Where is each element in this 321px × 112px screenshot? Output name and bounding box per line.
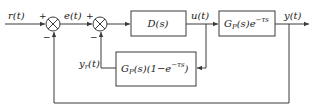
control-label: u(t) xyxy=(191,10,209,21)
summing-junction-2 xyxy=(93,17,107,31)
sum1-minus-sign: − xyxy=(43,32,51,42)
sum1-plus-sign: + xyxy=(39,11,47,21)
output-label: y(t) xyxy=(283,10,302,21)
error-label: e(t) xyxy=(64,10,82,21)
predictor-feedback-path xyxy=(101,32,116,68)
predictor-input-path xyxy=(197,24,206,68)
sum2-plus-sign: + xyxy=(86,11,94,21)
predictor-output-label: yr(t) xyxy=(78,58,100,71)
summing-junction-1 xyxy=(46,17,60,31)
controller-label: D(s) xyxy=(147,18,169,29)
sum2-minus-sign: − xyxy=(90,32,98,42)
block-diagram: r(t) + − e(t) + − D(s) u(t) GP(s)e−τs y(… xyxy=(0,0,321,112)
input-label: r(t) xyxy=(8,10,25,21)
